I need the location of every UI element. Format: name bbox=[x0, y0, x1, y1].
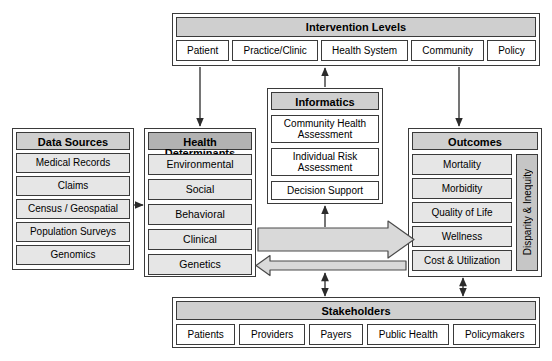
diagram-canvas: Intervention Levels Patient Practice/Cli… bbox=[0, 0, 552, 361]
block-arrow-outcomes-to-determinants-icon bbox=[256, 256, 406, 276]
connector-layer bbox=[0, 0, 552, 361]
block-arrow-determinants-to-outcomes-icon bbox=[258, 221, 414, 258]
